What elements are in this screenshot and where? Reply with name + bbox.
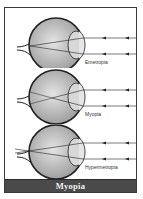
label-emetropia: Emetropia <box>85 59 108 65</box>
arrow-icon <box>125 158 129 161</box>
arrow-icon <box>102 89 106 92</box>
arrow-icon <box>125 142 129 145</box>
arrow-icon <box>102 37 106 40</box>
eye-diagram-myopia <box>5 68 136 126</box>
figure-caption: Myopia <box>5 179 136 192</box>
panel-myopia: Myopia <box>5 68 136 126</box>
arrow-icon <box>125 53 129 56</box>
arrow-icon <box>125 89 129 92</box>
figure-frame: Emetropia Myopia <box>4 7 137 193</box>
label-myopia: Myopia <box>85 111 101 117</box>
panel-hypermetropia: Hypermetropia <box>5 125 136 183</box>
eye-diagram-hypermetropia <box>5 125 136 183</box>
arrow-icon <box>102 105 106 108</box>
label-hypermetropia: Hypermetropia <box>85 164 118 170</box>
arrow-icon <box>102 158 106 161</box>
eye-diagram-emetropia <box>5 10 136 68</box>
panel-emetropia: Emetropia <box>5 10 136 68</box>
arrow-icon <box>102 53 106 56</box>
arrow-icon <box>125 37 129 40</box>
arrow-icon <box>125 105 129 108</box>
arrow-icon <box>102 142 106 145</box>
